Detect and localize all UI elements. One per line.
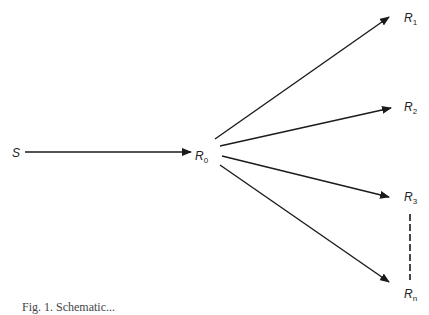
node-label-r0: R0	[195, 149, 209, 165]
arrow-r0-to-r1	[215, 17, 389, 139]
arrow-r0-to-rn	[220, 165, 389, 282]
node-label-s: S	[12, 146, 20, 160]
node-label-r1: R1	[404, 11, 418, 27]
node-label-rn: Rn	[404, 287, 417, 303]
node-label-r2: R2	[404, 100, 418, 116]
node-label-r3: R3	[404, 190, 418, 206]
arrow-r0-to-r2	[220, 108, 391, 146]
arrow-r0-to-r3	[222, 156, 389, 197]
figure-caption: Fig. 1. Schematic...	[22, 300, 115, 315]
